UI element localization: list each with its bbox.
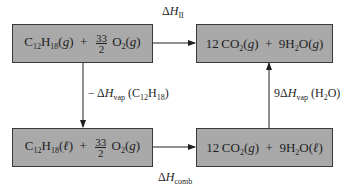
- formula: C12H18(ℓ) + 332 O2(g): [25, 137, 140, 158]
- box-bottom-right-products-liquid: 12 CO2(g) + 9H2O(ℓ): [196, 128, 333, 167]
- label-9-delta-h-vap-h2o: 9ΔHvap (H2O): [274, 86, 340, 101]
- formula: C12H18C12H18(g) + 332 O2(g): [24, 33, 140, 54]
- box-top-left-reactants-gas: C12H18C12H18(g) + 332 O2(g): [12, 24, 153, 63]
- label-delta-h-comb: ΔHcomb: [158, 170, 192, 185]
- label-delta-h-ii: ΔHII: [162, 4, 184, 19]
- box-bottom-left-reactants-liquid: C12H18(ℓ) + 332 O2(g): [12, 128, 153, 167]
- formula: 12 CO2(g) + 9H2O(ℓ): [206, 140, 323, 156]
- label-neg-delta-h-vap-c12h18: − ΔHvap (C12H18): [88, 86, 169, 101]
- formula: 12 CO2(g) + 9H2O(g): [206, 36, 324, 52]
- box-top-right-products-gas: 12 CO2(g) + 9H2O(g): [196, 24, 333, 63]
- fraction: 332: [95, 137, 106, 158]
- fraction: 332: [96, 33, 107, 54]
